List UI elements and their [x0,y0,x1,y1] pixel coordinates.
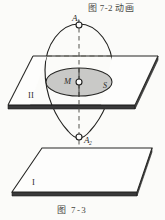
label-plane-upper: II [28,90,34,100]
label-point-a1-subscript: 1 [77,18,80,24]
label-point-a2: A2 [84,135,92,146]
label-plane-lower: I [32,177,35,187]
label-point-s: S [103,81,107,90]
geometry-figure-canvas [0,0,165,220]
label-point-m: M [64,76,71,86]
point-m-marker [76,79,82,85]
label-point-a2-subscript: 2 [89,140,92,146]
plane-lower-front-edge [12,192,137,196]
plane-lower-group [12,148,152,196]
figure-bottom-caption: 图 7-3 [57,203,87,216]
label-point-a1: A1 [72,13,80,24]
figure-top-caption: 图 7-2 动画 [88,1,134,14]
point-a2-marker [76,134,82,140]
figure-page: 图 7-2 动画 A1 A2 M S II I 图 7-3 [0,0,165,220]
